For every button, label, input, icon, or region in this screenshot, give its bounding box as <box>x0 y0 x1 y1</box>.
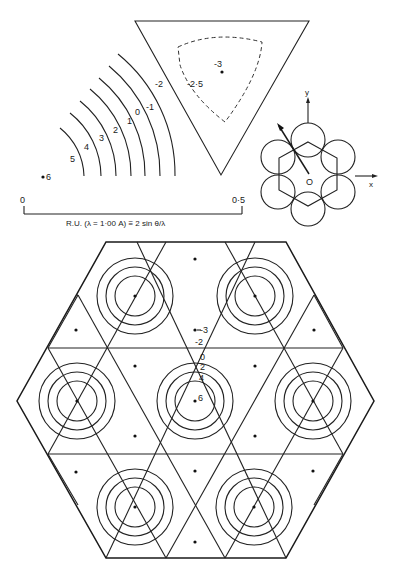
arc-label-5: 5 <box>70 154 75 164</box>
ring-group <box>275 363 351 439</box>
triangle-center-dot <box>220 70 223 73</box>
label-minus2: -2 <box>155 79 163 89</box>
reciprocal-unit-axis: 0 0·5 R.U. (λ = 1·00 A) ≡ 2 sin θ/λ <box>20 195 245 228</box>
hex-label-2: 2 <box>200 362 205 372</box>
ring-group <box>216 469 292 545</box>
hex-label-0: 0 <box>200 352 205 362</box>
point-6-dot <box>41 175 44 178</box>
arc-label-4: 4 <box>84 142 89 152</box>
axis-x-label: x <box>369 180 373 189</box>
ring-group-center <box>157 363 233 439</box>
axis-caption: R.U. (λ = 1·00 A) ≡ 2 sin θ/λ <box>66 219 165 228</box>
arc-label-minus1: -1 <box>146 102 154 112</box>
ring-group <box>97 469 173 545</box>
hex-label-minus2: -2 <box>195 337 203 347</box>
radial-contour-arcs <box>60 54 175 176</box>
label-minus2-5: -2·5 <box>187 79 203 89</box>
hex-label-6: 6 <box>198 393 203 403</box>
label-minus3: -3 <box>214 59 222 69</box>
hex-label-4: 4 <box>199 373 204 383</box>
arc-labels: 5 4 3 2 1 0 -1 <box>70 102 154 164</box>
arc-label-3: 3 <box>99 133 104 143</box>
arc-label-1: 1 <box>127 116 132 126</box>
lattice-inset: y x O <box>261 88 378 226</box>
axis-y-label: y <box>305 88 309 97</box>
axis-tick-0-5: 0·5 <box>232 195 245 205</box>
hexagon-contour-map: -3 -2 0 2 4 6 <box>17 242 374 558</box>
axis-tick-0: 0 <box>20 195 25 205</box>
arc-label-0: 0 <box>135 107 140 117</box>
arc-label-2: 2 <box>113 125 118 135</box>
origin-label: O <box>306 177 313 187</box>
ring-group <box>97 258 173 334</box>
ring-group <box>39 363 115 439</box>
ring-group <box>217 258 293 334</box>
point-6-label: 6 <box>46 172 51 182</box>
hex-label-minus3: -3 <box>200 325 208 335</box>
triangle-contour-map: -3 -2 -2·5 <box>135 21 309 175</box>
contour-figure: 5 4 3 2 1 0 -1 6 0 0·5 R.U. (λ = 1·00 A)… <box>0 0 393 566</box>
